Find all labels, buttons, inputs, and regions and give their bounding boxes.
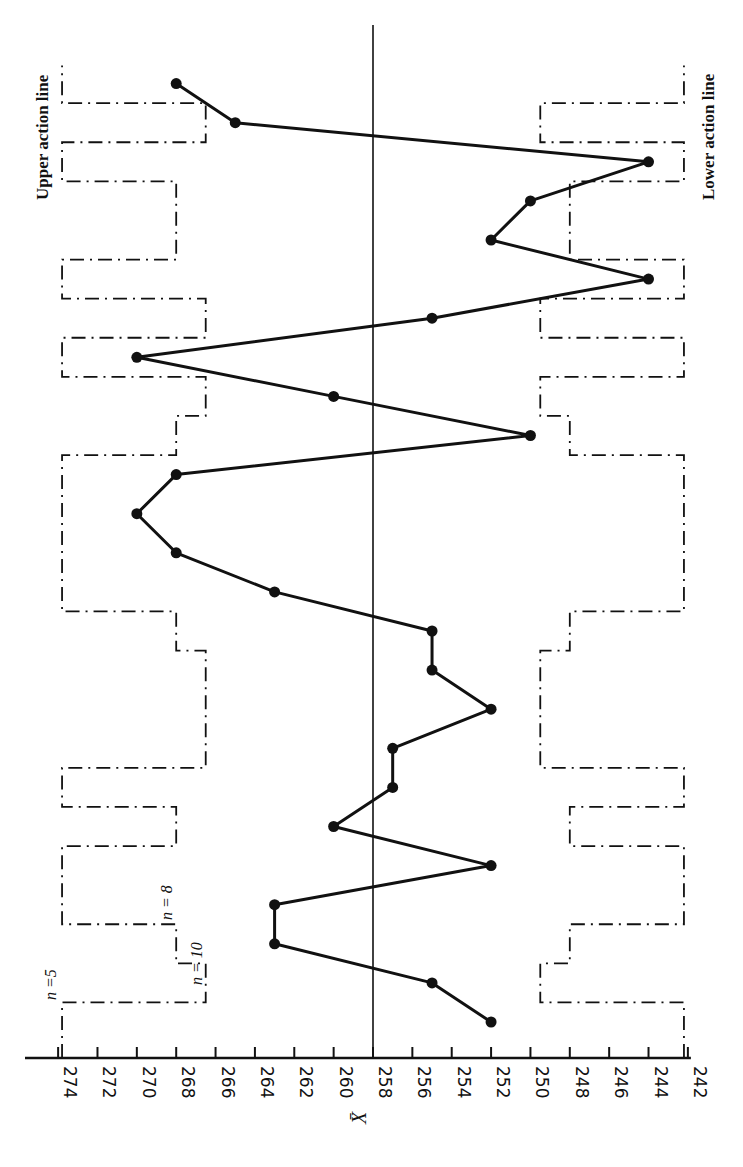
tick-label: 262 [296, 1066, 316, 1098]
tick-label: 254 [454, 1066, 474, 1098]
axis-ticks: 2742722702682662642622602582562542522502… [58, 1047, 710, 1098]
data-point [131, 352, 142, 363]
data-point [387, 743, 398, 754]
data-point [230, 117, 241, 128]
data-point [387, 782, 398, 793]
tick-label: 252 [493, 1066, 513, 1098]
data-point [269, 938, 280, 949]
data-point [131, 508, 142, 519]
tick-label: 268 [178, 1066, 198, 1098]
data-point [427, 665, 438, 676]
tick-label: 256 [414, 1066, 434, 1098]
data-point [427, 313, 438, 324]
tick-label: 244 [651, 1066, 671, 1098]
tick-label: 250 [532, 1066, 552, 1098]
data-point [486, 1017, 497, 1028]
data-point [486, 860, 497, 871]
data-point [269, 899, 280, 910]
data-point [171, 547, 182, 558]
tick-label: 242 [690, 1066, 710, 1098]
upper-action-line-label: Upper action line [33, 74, 52, 200]
data-point [328, 391, 339, 402]
tick-label: 272 [99, 1066, 119, 1098]
lower-action-line [540, 66, 684, 1058]
n8-label: n = 8 [158, 885, 175, 920]
n5-label: n =5 [42, 969, 59, 1000]
data-point [171, 78, 182, 89]
control-chart: 2742722702682662642622602582562542522502… [0, 0, 743, 1167]
data-point [328, 821, 339, 832]
data-point [525, 195, 536, 206]
lower-action-line-label: Lower action line [699, 73, 718, 200]
data-point [427, 626, 438, 637]
data-point [269, 586, 280, 597]
tick-label: 260 [336, 1066, 356, 1098]
tick-label: 258 [375, 1066, 395, 1098]
upper-action-line [62, 66, 206, 1058]
axis-title-xbar: X̄ [348, 1111, 370, 1125]
tick-label: 246 [611, 1066, 631, 1098]
tick-label: 274 [60, 1066, 80, 1098]
tick-label: 248 [572, 1066, 592, 1098]
tick-label: 270 [139, 1066, 159, 1098]
tick-label: 266 [218, 1066, 238, 1098]
tick-label: 264 [257, 1066, 277, 1098]
data-series [131, 78, 654, 1027]
data-point [171, 469, 182, 480]
data-point [643, 156, 654, 167]
data-point [486, 235, 497, 246]
data-point [643, 274, 654, 285]
data-point [427, 977, 438, 988]
xbar-line [137, 84, 649, 1022]
n10-label: n = 10 [188, 942, 205, 985]
data-point [525, 430, 536, 441]
data-point [486, 704, 497, 715]
